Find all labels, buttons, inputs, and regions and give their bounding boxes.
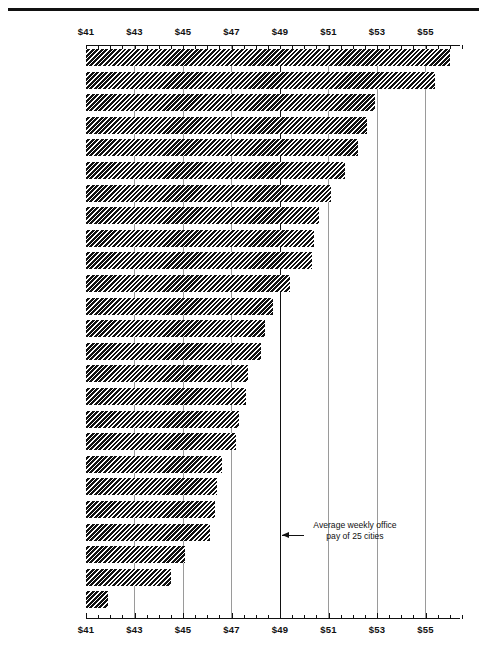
bar: [86, 433, 236, 450]
bar-row: Los Angeles: [86, 70, 458, 91]
axis-tick: [462, 45, 463, 49]
bar: [86, 94, 375, 111]
bar-row: San Francisco: [86, 47, 458, 68]
axis-tick-label: $51: [320, 624, 336, 635]
bar-chart: $41$43$45$47$49$51$53$55 $41$43$45$47$49…: [0, 0, 487, 670]
bar-row: New York City: [86, 92, 458, 113]
bar: [86, 524, 210, 541]
bar-row: Buffalo: [86, 273, 458, 294]
axis-tick-label: $53: [369, 26, 385, 37]
axis-tick-label: $49: [272, 26, 288, 37]
bar-row: Providence: [86, 567, 458, 588]
axis-tick-label: $43: [126, 624, 142, 635]
bar: [86, 207, 319, 224]
bar-row: Kansas City: [86, 318, 458, 339]
bar-row: Indianapolis: [86, 228, 458, 249]
bar: [86, 49, 450, 66]
bar-row: Houston: [86, 160, 458, 181]
bar: [86, 252, 312, 269]
bar: [86, 388, 246, 405]
bar: [86, 230, 314, 247]
bar: [86, 117, 367, 134]
axis-line-bottom: [86, 618, 460, 619]
bar-row: Memphis: [86, 544, 458, 565]
axis-tick-label: $45: [175, 26, 191, 37]
axis-tick-label: $47: [223, 624, 239, 635]
bar: [86, 275, 290, 292]
axis-tick-label: $49: [272, 624, 288, 635]
bar: [86, 591, 108, 608]
bar: [86, 456, 222, 473]
average-annotation-label: Average weekly office pay of 25 cities: [300, 520, 410, 541]
bar-row: Seattle: [86, 137, 458, 158]
bar-row: Hartford: [86, 363, 458, 384]
bar: [86, 569, 171, 586]
bar: [86, 546, 185, 563]
bar-row: Cleveland: [86, 115, 458, 136]
bar: [86, 501, 215, 518]
axis-tick-label: $55: [417, 624, 433, 635]
bar: [86, 343, 261, 360]
top-rule: [8, 8, 479, 11]
bar-row: Denver: [86, 341, 458, 362]
bar-row: Oklahoma City: [86, 499, 458, 520]
bar-row: Scranton: [86, 589, 458, 610]
bar-row: Philadelphia: [86, 431, 458, 452]
axis-tick-label: $45: [175, 624, 191, 635]
bar-row: Newark: [86, 205, 458, 226]
bar: [86, 72, 435, 89]
axis-tick-label: $41: [78, 26, 94, 37]
bar: [86, 139, 358, 156]
bar-row: Norfolk: [86, 386, 458, 407]
bar: [86, 162, 345, 179]
bar: [86, 365, 248, 382]
bar-row: St. Louis: [86, 296, 458, 317]
axis-tick: [462, 615, 463, 619]
axis-tick-label: $43: [126, 26, 142, 37]
axis-tick-label: $47: [223, 26, 239, 37]
axis-tick-label: $41: [78, 624, 94, 635]
bar-row: Pittsburgh: [86, 183, 458, 204]
axis-tick-label: $51: [320, 26, 336, 37]
bar: [86, 185, 331, 202]
bar: [86, 320, 265, 337]
bar-row: Salt Lake City: [86, 409, 458, 430]
bar: [86, 411, 239, 428]
bar-row: Minneapolis- St. Paul: [86, 476, 458, 497]
axis-tick-label: $55: [417, 26, 433, 37]
bar-row: Rochester: [86, 250, 458, 271]
bar: [86, 298, 273, 315]
bar: [86, 478, 217, 495]
axis-tick-label: $53: [369, 624, 385, 635]
bar-row: Richmond: [86, 454, 458, 475]
